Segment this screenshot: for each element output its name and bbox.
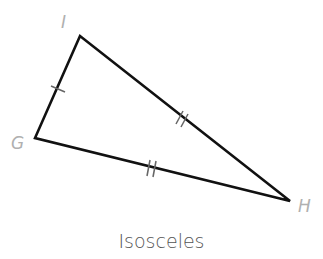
- triangle-figure: [0, 0, 323, 259]
- diagram-caption: Isosceles: [0, 230, 323, 252]
- vertex-label-G: G: [11, 133, 24, 153]
- triangle-GIH: [35, 36, 290, 201]
- vertex-label-I: I: [61, 12, 66, 32]
- double-tick-mark-GH: [147, 160, 156, 177]
- vertex-label-H: H: [298, 196, 311, 216]
- isosceles-triangle-diagram: I G H Isosceles: [0, 0, 323, 259]
